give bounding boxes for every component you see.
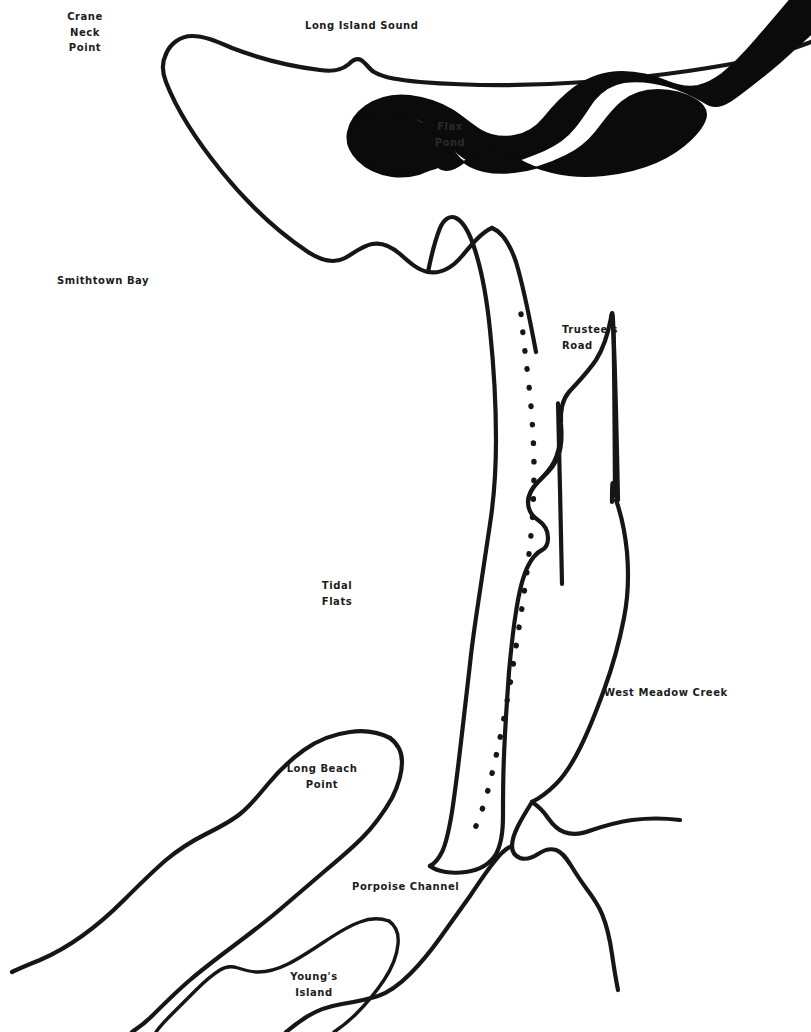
label-long-island-sound: Long Island Sound: [305, 18, 418, 34]
label-west-meadow-creek: West Meadow Creek: [604, 685, 728, 701]
creek-branch-main-path: [532, 802, 680, 834]
label-long-beach-point: Long Beach Point: [286, 761, 358, 792]
tidal-flats-spit-tip-path: [430, 672, 509, 873]
map-vector-layer: [0, 0, 811, 1032]
label-porpoise-channel: Porpoise Channel: [352, 879, 459, 895]
label-smithtown-bay: Smithtown Bay: [57, 273, 149, 289]
label-crane-neck-point: Crane Neck Point: [55, 9, 115, 56]
tidal-flats-spit-west-shore-path: [428, 217, 496, 866]
label-tidal-flats: Tidal Flats: [315, 578, 359, 609]
label-flax-pond: Flax Pond: [430, 119, 470, 150]
label-trustees-road: Trustee's Road: [562, 322, 618, 353]
map-canvas: Crane Neck Point Long Island Sound Flax …: [0, 0, 811, 1032]
crane-neck-peninsula-path: [166, 36, 811, 85]
label-youngs-island: Young's Island: [288, 969, 340, 1000]
youngs-island-south-shore-path: [334, 921, 398, 1032]
peninsula-east-neck-path: [492, 228, 536, 352]
